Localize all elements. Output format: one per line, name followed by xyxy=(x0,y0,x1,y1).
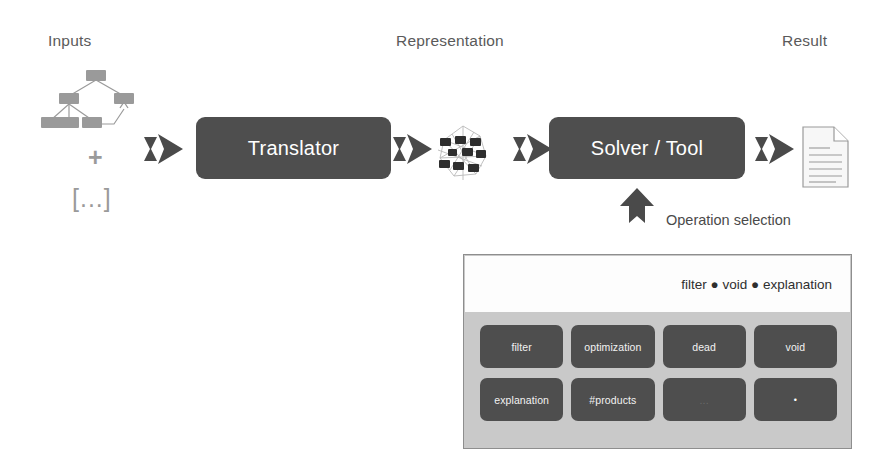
operation-tile[interactable]: • xyxy=(754,378,837,421)
feature-tree-icon xyxy=(36,62,156,138)
operation-tile[interactable]: dead xyxy=(663,325,746,368)
heading-inputs: Inputs xyxy=(48,32,91,50)
operation-selection-panel[interactable]: filter ● void ● explanation filter optim… xyxy=(463,254,852,449)
translator-box[interactable]: Translator xyxy=(196,117,391,179)
input-ellipsis-symbol: [...] xyxy=(72,186,112,211)
heading-result: Result xyxy=(782,32,827,50)
arrow-right-icon xyxy=(141,127,187,171)
solver-tool-box[interactable]: Solver / Tool xyxy=(549,117,745,179)
operation-selection-label: Operation selection xyxy=(666,212,791,228)
operation-tile[interactable]: #products xyxy=(571,378,654,421)
operation-tile[interactable]: explanation xyxy=(480,378,563,421)
breadcrumb: filter ● void ● explanation xyxy=(681,277,832,292)
document-icon xyxy=(800,124,852,190)
operation-tile-grid: filter optimization dead void explanatio… xyxy=(480,325,837,421)
arrow-right-icon xyxy=(752,127,798,171)
diagram-canvas: Inputs Representation Result xyxy=(0,0,893,473)
graph-network-icon xyxy=(432,122,494,184)
operation-tile[interactable]: void xyxy=(754,325,837,368)
operation-tile[interactable]: filter xyxy=(480,325,563,368)
operation-tile[interactable]: ... xyxy=(663,378,746,421)
arrow-right-icon xyxy=(390,127,436,171)
heading-representation: Representation xyxy=(396,32,504,50)
input-plus-symbol: + xyxy=(88,145,103,170)
operation-tile[interactable]: optimization xyxy=(571,325,654,368)
breadcrumb-bar: filter ● void ● explanation xyxy=(465,256,850,312)
arrow-up-icon xyxy=(618,186,656,226)
